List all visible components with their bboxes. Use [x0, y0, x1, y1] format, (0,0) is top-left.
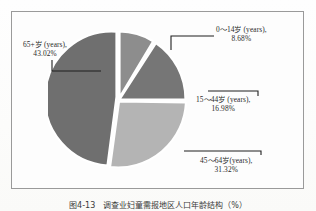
- pie-label-15-44-line1: 15～44岁 (years),: [196, 95, 251, 104]
- pie-label-0-14-value: 8.68%: [216, 34, 267, 43]
- pie-label-65-plus-line1: 65+岁 (years),: [23, 40, 67, 49]
- pie-label-0-14: 0～14岁 (years), 8.68%: [216, 25, 267, 43]
- pie-chart: [48, 28, 188, 168]
- pie-slice-45-64: [110, 102, 186, 168]
- figure-stage: 0～14岁 (years), 8.68% 15～44岁 (years), 16.…: [0, 0, 316, 211]
- pie-label-15-44: 15～44岁 (years), 16.98%: [196, 95, 251, 113]
- pie-slices: [48, 31, 186, 167]
- pie-label-45-64: 45～64岁(years), 31.32%: [200, 156, 253, 174]
- pie-label-65-plus: 65+岁 (years), 43.02%: [23, 40, 67, 58]
- pie-label-15-44-value: 16.98%: [196, 104, 251, 113]
- pie-label-45-64-line1: 45～64岁(years),: [200, 156, 253, 165]
- pie-label-0-14-line1: 0～14岁 (years),: [216, 25, 267, 34]
- pie-label-45-64-value: 31.32%: [200, 165, 253, 174]
- pie-chart-svg: [48, 28, 188, 168]
- figure-caption: 图4-13 调查业妇童需报地区人口年龄结构（%）: [0, 201, 316, 211]
- pie-label-65-plus-value: 43.02%: [23, 49, 67, 58]
